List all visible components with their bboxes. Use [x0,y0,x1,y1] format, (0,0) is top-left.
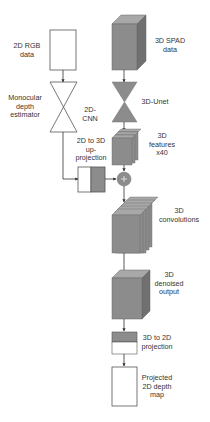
unet-label-text: 3D-Unet [138,98,172,107]
output-label: Projected 2D depth map [139,374,175,400]
projection-box [112,342,137,354]
output-label-line3: map [139,391,175,400]
projection-label-line2: projection [139,343,175,352]
upprojection-box-shaded [91,167,105,192]
upprojection-label-line3: projection [72,154,110,163]
denoised-label-line3: output [152,288,186,297]
upprojection-label: 2D to 3D up- projection [72,137,110,163]
rgb-data-box [50,30,76,70]
cnn-label: 2D- CNN [79,106,101,123]
spad-data-cube-icon [112,15,146,70]
features-label: 3D features x40 [148,132,176,158]
fusion-plus-icon [117,172,131,186]
unet-label: 3D-Unet [138,98,172,107]
unet-hourglass-icon [112,82,137,122]
spad-data-label: 3D SPAD data [150,37,190,54]
conv-label-line2: convolutions [156,216,202,225]
cnn-label-line2: CNN [79,115,101,124]
denoised-output-cube-icon [112,270,150,319]
convolutions-label: 3D convolutions [156,207,202,224]
upprojection-box [78,167,91,192]
cnn-hourglass-icon [50,82,77,132]
depth-map-box [112,367,137,406]
spad-label-line2: data [150,46,190,55]
features-label-line3: x40 [148,149,176,158]
features-cube-stack-icon [112,129,141,165]
projection-box-shaded [112,332,137,342]
estimator-label-line3: estimator [2,111,48,120]
rgb-label-line2: data [6,51,48,60]
convolutions-cube-stack-icon [112,197,158,253]
projection-label: 3D to 2D projection [139,334,175,351]
rgb-data-label: 2D RGB data [6,42,48,59]
estimator-label: Monocular depth estimator [2,94,48,120]
denoised-label: 3D denoised output [152,271,186,297]
